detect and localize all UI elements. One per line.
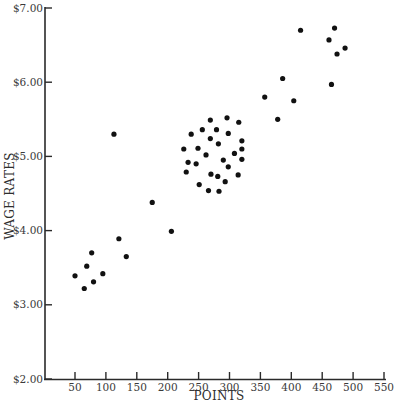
data-point — [226, 164, 231, 169]
data-point — [342, 45, 347, 50]
data-point — [208, 136, 213, 141]
data-point — [239, 138, 244, 143]
data-point — [221, 158, 226, 163]
data-point — [223, 179, 228, 184]
data-point — [216, 141, 221, 146]
data-point — [236, 172, 241, 177]
data-point — [185, 160, 190, 165]
data-point — [232, 151, 237, 156]
y-tick-label: $6.00 — [13, 76, 43, 88]
x-axis: 50100150200250300350400450500550 POINTS — [44, 372, 394, 403]
x-axis-title: POINTS — [193, 389, 244, 403]
y-axis-title: WAGE RATES — [3, 152, 17, 240]
data-point — [298, 28, 303, 33]
data-point — [275, 117, 280, 122]
data-point — [197, 182, 202, 187]
data-point — [239, 146, 244, 151]
data-point — [203, 152, 208, 157]
x-tick-label: 550 — [374, 381, 394, 393]
x-tick-label: 350 — [250, 381, 270, 393]
data-points — [72, 25, 347, 291]
data-point — [280, 76, 285, 81]
data-point — [82, 286, 87, 291]
data-point — [124, 254, 129, 259]
data-point — [329, 82, 334, 87]
data-point — [195, 146, 200, 151]
data-point — [189, 132, 194, 137]
data-point — [72, 273, 77, 278]
data-point — [181, 146, 186, 151]
data-point — [208, 172, 213, 177]
data-point — [216, 189, 221, 194]
data-point — [169, 229, 174, 234]
data-point — [334, 51, 339, 56]
data-point — [332, 25, 337, 30]
data-point — [239, 157, 244, 162]
data-point — [208, 117, 213, 122]
data-point — [206, 188, 211, 193]
x-tick-label: 200 — [158, 381, 178, 393]
x-tick-label: 50 — [68, 381, 81, 393]
scatter-chart: $2.00$3.00$4.00$5.00$6.00$7.00 WAGE RATE… — [0, 0, 396, 403]
y-tick-label: $4.00 — [13, 224, 43, 236]
data-point — [91, 279, 96, 284]
data-point — [215, 174, 220, 179]
y-tick-label: $3.00 — [13, 298, 43, 310]
x-tick-label: 450 — [312, 381, 332, 393]
y-axis: $2.00$3.00$4.00$5.00$6.00$7.00 WAGE RATE… — [3, 2, 52, 385]
data-point — [100, 271, 105, 276]
data-point — [236, 120, 241, 125]
data-point — [226, 131, 231, 136]
y-ticks: $2.00$3.00$4.00$5.00$6.00$7.00 — [13, 2, 52, 385]
data-point — [291, 98, 296, 103]
y-tick-label: $5.00 — [13, 150, 43, 162]
data-point — [194, 161, 199, 166]
x-tick-label: 100 — [96, 381, 116, 393]
x-tick-label: 400 — [281, 381, 301, 393]
data-point — [214, 127, 219, 132]
x-tick-label: 150 — [127, 381, 147, 393]
x-tick-label: 500 — [343, 381, 363, 393]
data-point — [200, 127, 205, 132]
data-point — [111, 132, 116, 137]
data-point — [116, 236, 121, 241]
data-point — [326, 37, 331, 42]
data-point — [262, 94, 267, 99]
y-tick-label: $7.00 — [13, 2, 43, 14]
data-point — [224, 115, 229, 120]
data-point — [184, 169, 189, 174]
data-point — [84, 264, 89, 269]
y-tick-label: $2.00 — [13, 373, 43, 385]
data-point — [89, 250, 94, 255]
data-point — [150, 200, 155, 205]
